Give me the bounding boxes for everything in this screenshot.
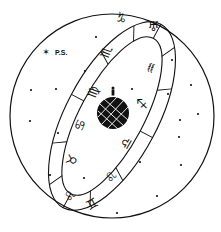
celestial-sphere-diagram: ♑ ♅ ♒ ♐ ♎ ♌ ♊ ♌ ♉ ♋ ♍ ♏ ✶ P.S. <box>0 0 221 232</box>
pole-star-label: P.S. <box>55 49 67 56</box>
zodiac-aquarius-back: ♅ <box>147 19 159 34</box>
observer-figure-icon <box>112 87 115 96</box>
earth-globe <box>97 97 129 129</box>
pole-star: ✶ P.S. <box>42 47 67 57</box>
pole-star-icon: ✶ <box>42 47 50 57</box>
zodiac-sagittarius: ♐ <box>135 98 150 110</box>
